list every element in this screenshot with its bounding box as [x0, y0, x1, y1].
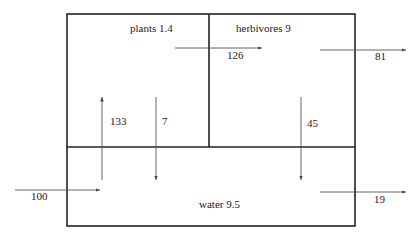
plants-label: plants 1.4 — [130, 22, 173, 34]
flow-label-81: 81 — [375, 50, 386, 62]
flow-label-45: 45 — [307, 117, 318, 129]
herbivores-label: herbivores 9 — [236, 22, 291, 34]
flow-label-19: 19 — [374, 193, 385, 205]
flow-label-100: 100 — [31, 190, 48, 202]
flow-label-7: 7 — [162, 115, 168, 127]
water-label: water 9.5 — [199, 198, 240, 210]
flow-label-133: 133 — [110, 115, 127, 127]
flow-label-126: 126 — [227, 49, 244, 61]
flow-arrows — [15, 48, 406, 192]
